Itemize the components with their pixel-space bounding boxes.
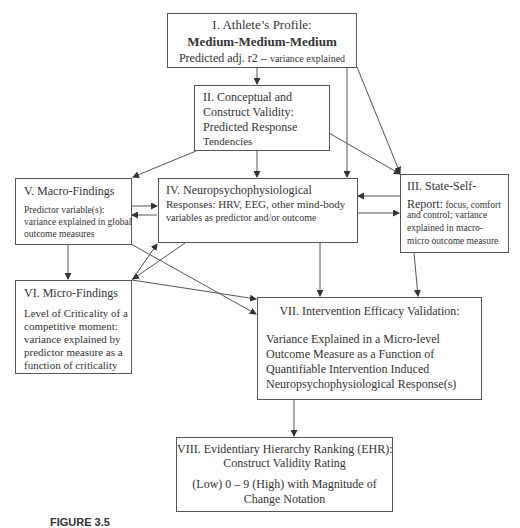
arrow-vi-to-iv	[132, 244, 157, 280]
arrow-iv-to-vi	[133, 243, 185, 279]
box-iii-line: micro outcome measure	[407, 237, 498, 247]
box-i-emphasis: Medium-Medium-Medium	[168, 35, 356, 48]
box-vii-line: Variance Explained in a Micro-level	[266, 333, 440, 345]
arrow-ii-to-iii	[329, 133, 400, 174]
arrow-i-to-iii	[357, 67, 400, 173]
arrow-iii-to-vii	[414, 253, 418, 296]
box-micro-findings: VI. Micro-Findings Level of Criticality …	[15, 280, 132, 374]
figure-caption: FIGURE 3.5	[50, 516, 110, 528]
box-evidentiary-hierarchy-ranking: VIII. Evidentiary Hierarchy Ranking (EHR…	[176, 437, 393, 512]
box-i-line3-a: Predicted adj. r2 –	[179, 51, 270, 65]
box-v-line: outcome measures	[24, 230, 94, 240]
box-v-title: V. Macro-Findings	[24, 185, 114, 197]
box-ii-line: II. Conceptual and	[203, 91, 292, 103]
box-i-line3: Predicted adj. r2 – variance explained	[168, 52, 356, 64]
box-vi-line: Level of Criticality of a	[24, 308, 128, 319]
box-iii-title-2: Report:	[407, 197, 443, 211]
box-iv-line: variables as predictor and/or outcome	[166, 213, 317, 223]
box-iv-line: Responses: HRV, EEG, other mind-body	[166, 199, 345, 210]
box-macro-findings: V. Macro-Findings Predictor variable(s):…	[15, 178, 132, 245]
box-conceptual-construct-validity: II. Conceptual and Construct Validity: P…	[194, 85, 330, 151]
box-vi-line: variance explained by	[24, 334, 121, 345]
box-intervention-efficacy-validation: VII. Intervention Efficacy Validation: V…	[257, 297, 482, 400]
box-vi-line: function of criticality	[24, 360, 117, 371]
box-athlete-profile: I. Athlete’s Profile: Medium-Medium-Medi…	[167, 13, 357, 68]
box-ii-line: Tendencies	[203, 136, 252, 147]
arrow-vi-to-vii	[132, 280, 256, 299]
box-viii-line: (Low) 0 – 9 (High) with Magnitude of	[177, 478, 392, 490]
box-vi-line: predictor measure as a	[24, 347, 123, 358]
box-iii-line-1: Report: focus, comfort	[407, 195, 501, 211]
box-vii-line: Neuropsychophysiological Response(s)	[266, 378, 456, 390]
figure-label: FIGURE 3.5	[50, 516, 110, 528]
box-neuropsychophysiological-responses: IV. Neuropsychophysiological Responses: …	[158, 178, 358, 243]
box-vii-line: Outcome Measure as a Function of	[266, 348, 434, 360]
box-vii-title: VII. Intervention Efficacy Validation:	[258, 305, 481, 317]
box-viii-line: Construct Validity Rating	[177, 457, 392, 469]
box-iii-title: III. State-Self-	[407, 180, 476, 192]
box-v-line: variance explained in global	[24, 218, 131, 228]
box-viii-line: Change Notation	[177, 493, 392, 505]
box-iii-line: explained in macro-	[407, 224, 483, 234]
box-vi-title: VI. Micro-Findings	[24, 287, 118, 299]
box-i-line3-b: variance explained	[270, 53, 345, 64]
box-v-line: Predictor variable(s):	[24, 206, 104, 216]
arrow-ii-to-v	[133, 151, 196, 177]
box-iv-line: IV. Neuropsychophysiological	[166, 184, 312, 196]
arrow-v-to-vii	[131, 244, 256, 314]
box-ii-line: Predicted Response	[203, 121, 297, 133]
box-ii-line: Construct Validity:	[203, 106, 294, 118]
box-vii-line: Quantifiable Intervention Induced	[266, 363, 429, 375]
box-state-self-report: III. State-Self- Report: focus, comfort …	[400, 174, 509, 253]
box-viii-line: VIII. Evidentiary Hierarchy Ranking (EHR…	[177, 443, 392, 455]
box-vi-line: competitive moment:	[24, 321, 118, 332]
box-i-title: I. Athlete’s Profile:	[168, 18, 356, 31]
box-iii-line: and control; variance	[407, 211, 487, 221]
box-iii-detail: focus, comfort	[443, 200, 501, 210]
